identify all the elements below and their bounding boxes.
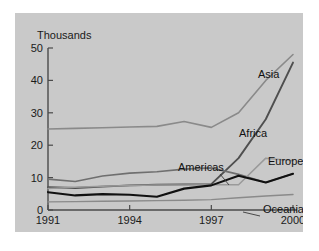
series-labels: AfricaAsiaAmericasEuropeOceania bbox=[178, 68, 303, 215]
y-tick-label: 40 bbox=[31, 74, 43, 86]
leader-line bbox=[243, 212, 260, 216]
x-tick-label: 1994 bbox=[117, 214, 141, 226]
y-axis-title: Thousands bbox=[37, 29, 92, 41]
chart-figure: Thousands 01020304050 1991199419972000 A… bbox=[15, 13, 303, 232]
y-tick-label: 10 bbox=[31, 172, 43, 184]
series-label-oceania: Oceania bbox=[263, 203, 303, 215]
x-tick-label: 2000 bbox=[281, 214, 303, 226]
line-chart: Thousands 01020304050 1991199419972000 A… bbox=[15, 13, 303, 232]
x-tick-label: 1991 bbox=[36, 214, 60, 226]
series-label-africa: Africa bbox=[239, 127, 268, 139]
series-label-asia: Asia bbox=[258, 68, 280, 80]
y-tick-label: 20 bbox=[31, 139, 43, 151]
series-label-americas: Americas bbox=[178, 161, 224, 173]
y-tick-label: 30 bbox=[31, 107, 43, 119]
series-label-europe: Europe bbox=[268, 155, 303, 167]
x-tick-label: 1997 bbox=[199, 214, 223, 226]
series-line-asia bbox=[48, 63, 293, 188]
y-tick-label: 50 bbox=[31, 42, 43, 54]
series-line-africa bbox=[48, 54, 293, 129]
y-axis-title-group: Thousands bbox=[37, 29, 92, 41]
